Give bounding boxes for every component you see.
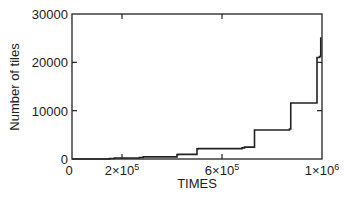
x-axis-ticks: 02×1056×1051×106 [65, 14, 339, 178]
data-series-line [72, 37, 321, 159]
x-tick-label: 1×106 [305, 162, 339, 178]
y-axis-ticks: 0100002000030000 [32, 7, 322, 167]
x-axis-title: TIMES [177, 176, 217, 191]
y-tick-label: 20000 [32, 55, 68, 70]
y-tick-label: 0 [61, 152, 68, 167]
y-axis-title: Number of tiles [7, 43, 22, 131]
y-tick-label: 30000 [32, 7, 68, 22]
step-chart: 02×1056×1051×106 0100002000030000 TIMES … [0, 0, 354, 198]
plot-frame [72, 14, 322, 159]
x-tick-label: 2×105 [105, 162, 139, 178]
y-tick-label: 10000 [32, 104, 68, 119]
